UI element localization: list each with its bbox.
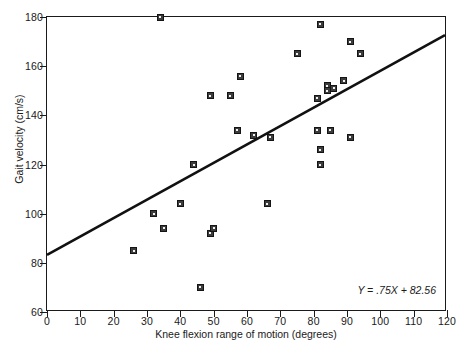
data-point (157, 14, 164, 21)
x-tick-label: 0 (44, 315, 50, 327)
scatter-plot-figure: 6080100120140160180 01020304050607080901… (0, 0, 467, 345)
data-point (237, 73, 244, 80)
data-point (357, 50, 364, 57)
data-point (250, 132, 257, 139)
regression-equation-label: Y = .75X + 82.56 (357, 284, 436, 296)
x-tick-label: 70 (274, 315, 286, 327)
y-tick-label: 80 (31, 257, 43, 269)
data-point (314, 127, 321, 134)
data-point (347, 38, 354, 45)
y-tick-label: 140 (25, 109, 43, 121)
data-point (160, 225, 167, 232)
x-tick-label: 60 (241, 315, 253, 327)
data-point (197, 284, 204, 291)
x-tick-label: 120 (438, 315, 456, 327)
data-point (130, 247, 137, 254)
plot-area: 6080100120140160180 01020304050607080901… (46, 16, 446, 311)
data-point (314, 95, 321, 102)
fit-line-segment (47, 35, 445, 255)
data-point (340, 77, 347, 84)
y-axis-title: Gait velocity (cm/s) (13, 59, 25, 219)
data-point (317, 21, 324, 28)
data-point (330, 85, 337, 92)
x-tick-label: 40 (174, 315, 186, 327)
x-tick-label: 50 (208, 315, 220, 327)
data-point (207, 92, 214, 99)
data-point (234, 127, 241, 134)
data-point (190, 161, 197, 168)
x-tick-label: 80 (308, 315, 320, 327)
x-axis-title: Knee flexion range of motion (degrees) (46, 328, 446, 340)
data-point (210, 225, 217, 232)
data-point (264, 200, 271, 207)
data-point (317, 146, 324, 153)
x-tick-label: 10 (74, 315, 86, 327)
data-point (227, 92, 234, 99)
data-point (317, 161, 324, 168)
x-tick-label: 20 (108, 315, 120, 327)
x-tick-label: 30 (141, 315, 153, 327)
data-point (327, 127, 334, 134)
x-tick-label: 110 (405, 315, 422, 327)
data-point (177, 200, 184, 207)
data-point (294, 50, 301, 57)
y-tick-label: 60 (31, 306, 43, 318)
data-point (150, 210, 157, 217)
y-tick-label: 100 (25, 208, 43, 220)
data-point (267, 134, 274, 141)
x-tick-label: 90 (341, 315, 353, 327)
data-point (347, 134, 354, 141)
y-tick-label: 160 (25, 60, 43, 72)
y-tick-label: 120 (25, 159, 43, 171)
y-tick-label: 180 (25, 11, 43, 23)
x-tick-label: 100 (371, 315, 389, 327)
regression-line (47, 17, 445, 310)
